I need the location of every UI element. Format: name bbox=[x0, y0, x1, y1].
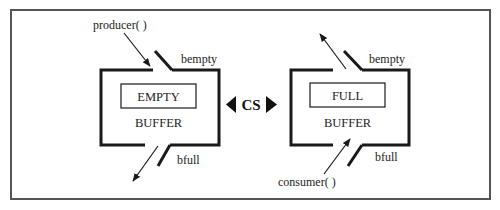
left-bempty-gate bbox=[155, 51, 172, 70]
cs-label: CS bbox=[241, 97, 260, 113]
producer-label: producer( ) bbox=[93, 18, 147, 32]
left-bfull-label: bfull bbox=[177, 153, 200, 167]
cs-left-arrow-icon bbox=[226, 96, 236, 113]
left-bfull-gate bbox=[158, 145, 170, 166]
left-buffer-label: BUFFER bbox=[135, 116, 183, 130]
right-bempty-gate bbox=[344, 51, 362, 70]
right-buffer: FULL BUFFER bempty bfull consumer( ) bbox=[278, 34, 409, 189]
producer-arrow-icon bbox=[124, 33, 150, 66]
right-bempty-label: bempty bbox=[369, 52, 405, 66]
right-buffer-label: BUFFER bbox=[324, 116, 372, 130]
critical-section: CS bbox=[226, 96, 277, 113]
left-bempty-label: bempty bbox=[181, 52, 217, 66]
left-buffer: EMPTY BUFFER bempty bfull producer( ) bbox=[93, 18, 219, 181]
right-bfull-label: bfull bbox=[375, 150, 398, 164]
producer-consumer-diagram: EMPTY BUFFER bempty bfull producer( ) CS… bbox=[0, 0, 500, 210]
consumer-label: consumer( ) bbox=[278, 175, 336, 189]
right-state-label: FULL bbox=[332, 89, 363, 103]
left-state-label: EMPTY bbox=[137, 90, 179, 104]
right-bfull-gate bbox=[348, 145, 362, 166]
right-exit-arrow-icon bbox=[320, 34, 346, 69]
cs-right-arrow-icon bbox=[266, 96, 277, 113]
left-exit-arrow-icon bbox=[133, 146, 158, 181]
